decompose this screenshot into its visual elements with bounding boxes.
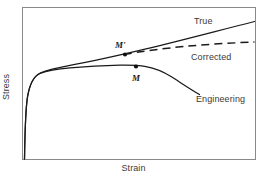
m-prime-marker (123, 52, 127, 56)
y-axis-title: Stress (1, 67, 11, 107)
engineering-curve-label: Engineering (196, 94, 245, 104)
x-axis-title: Strain (0, 163, 267, 173)
corrected-curve-label: Corrected (191, 52, 231, 62)
m-prime-label: M' (115, 40, 126, 50)
stress-strain-figure: Strain Stress True Corrected Engineering… (0, 0, 267, 177)
m-marker (134, 64, 138, 68)
m-label: M (132, 73, 140, 83)
plot-canvas (0, 0, 267, 177)
true-curve-label: True (194, 16, 213, 26)
